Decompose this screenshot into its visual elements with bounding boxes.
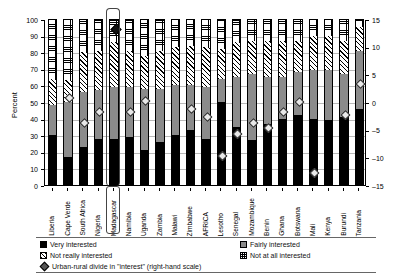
bar-segment-notatall (247, 19, 257, 41)
bar-segment-notreally (324, 36, 334, 71)
bar-segment-notatall (217, 19, 227, 49)
x-tick-mark (52, 188, 53, 191)
x-tick-label: Botswana (294, 207, 301, 236)
bar-segment-very (339, 117, 349, 185)
plot-area (44, 20, 366, 186)
x-tick-mark (205, 188, 206, 191)
bar-segment-very (247, 140, 257, 185)
x-tick-label: Zambia (156, 214, 163, 236)
diamond-marker-icon (40, 262, 50, 272)
bar-segment-very (263, 124, 273, 185)
bar-segment-notreally (263, 41, 273, 78)
x-tick-label: Cape Verde (64, 201, 71, 236)
x-tick-label: Malawi (171, 215, 178, 236)
bar-segment-notatall (232, 19, 242, 42)
x-tick-mark (343, 188, 344, 191)
bar-column (48, 20, 58, 185)
bar-column (339, 20, 349, 185)
legend-item-very: Very interested (40, 240, 97, 249)
highlight-box-madagascar (106, 8, 120, 186)
bar-segment-notatall (171, 19, 181, 47)
y-tick-mark (41, 153, 44, 154)
x-tick-mark (98, 188, 99, 191)
bar-segment-notatall (293, 19, 303, 41)
legend-item-overlay: Urban-rural divide in "interest" (right-… (40, 262, 201, 271)
bar-segment-fairly (263, 77, 273, 123)
y-tick-mark-right (366, 103, 369, 104)
bar-segment-notreally (186, 46, 196, 86)
bar-column (186, 20, 196, 185)
x-tick-mark (159, 188, 160, 191)
bar-segment-very (201, 139, 211, 185)
bar-segment-notreally (247, 41, 257, 74)
bar-segment-notatall (48, 19, 58, 79)
bar-segment-notreally (155, 51, 165, 89)
bar-segment-fairly (293, 72, 303, 115)
x-tick-label: Burundi (340, 213, 347, 236)
y-tick-mark-right (366, 20, 369, 21)
x-tick-mark (144, 188, 145, 191)
bar-segment-notreally (278, 41, 288, 78)
x-tick-label: Liberia (48, 216, 55, 236)
bar-segment-notreally (48, 79, 58, 106)
checkered-square-icon (240, 252, 247, 259)
bar-segment-notreally (125, 51, 135, 88)
legend-item-fairly: Fairly interested (240, 240, 300, 249)
x-tick-label: South Africa (79, 200, 86, 236)
y-tick-mark (41, 186, 44, 187)
bar-column (309, 20, 319, 185)
x-tick-label: Zimbabwe (186, 206, 193, 236)
x-tick-label: Ghana (278, 216, 285, 236)
x-tick-mark (236, 188, 237, 191)
y-tick-mark (41, 86, 44, 87)
x-tick-mark (251, 188, 252, 191)
bar-segment-very (217, 102, 227, 185)
grey-square-icon (240, 241, 247, 248)
y-tick-mark-right (366, 186, 369, 187)
x-tick-mark (128, 188, 129, 191)
bar-segment-fairly (171, 85, 181, 135)
x-tick-mark (67, 188, 68, 191)
bar-segment-notatall (278, 19, 288, 41)
bar-column (324, 20, 334, 185)
x-tick-label: Mali (309, 224, 316, 236)
x-tick-mark (297, 188, 298, 191)
bar-segment-fairly (155, 89, 165, 142)
bar-segment-notatall (339, 19, 349, 41)
bar-column (278, 20, 288, 185)
bar-segment-fairly (48, 105, 58, 135)
bar-segment-notatall (140, 19, 150, 56)
bar-segment-notreally (171, 47, 181, 85)
y-tick-label-right: –5 (372, 127, 398, 134)
x-tick-mark (174, 188, 175, 191)
x-tick-label: Senegal (232, 212, 239, 236)
bar-segment-very (140, 150, 150, 185)
bar-column (263, 20, 273, 185)
bar-column (247, 20, 257, 185)
y-tick-mark (41, 20, 44, 21)
y-tick-label: 30 (14, 133, 38, 140)
bar-segment-notatall (309, 19, 319, 36)
chart-legend: Very interested Fairly interested Not re… (36, 239, 376, 273)
bar-segment-notreally (94, 51, 104, 91)
x-tick-mark (328, 188, 329, 191)
y-tick-label-right: –15 (372, 183, 398, 190)
bar-column (232, 20, 242, 185)
bar-segment-notatall (263, 19, 273, 41)
y-tick-label: 90 (14, 33, 38, 40)
y-tick-label: 100 (14, 17, 38, 24)
bar-segment-notreally (293, 41, 303, 73)
bar-segment-notreally (201, 47, 211, 87)
bar-column (125, 20, 135, 185)
bar-segment-notatall (355, 19, 365, 27)
y-tick-mark (41, 70, 44, 71)
bar-column (94, 20, 104, 185)
y-tick-label: 0 (14, 183, 38, 190)
y-tick-label-right: 5 (372, 72, 398, 79)
y-tick-label-right: –10 (372, 155, 398, 162)
bar-column (155, 20, 165, 185)
y-tick-label: 10 (14, 166, 38, 173)
y-tick-label: 20 (14, 149, 38, 156)
bar-segment-very (48, 135, 58, 185)
bar-segment-very (79, 147, 89, 185)
